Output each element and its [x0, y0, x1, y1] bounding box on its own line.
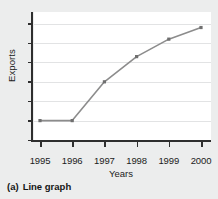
x-axis-tick [169, 142, 171, 147]
x-axis-tick-labels: 199519961997199819992000 [26, 155, 218, 168]
plot-frame [31, 12, 211, 148]
x-axis-tick-label: 1999 [152, 155, 186, 166]
y-axis-tick [28, 140, 33, 142]
x-axis-tick [104, 142, 106, 147]
data-point-marker [135, 55, 138, 58]
series-exports [34, 12, 211, 140]
x-axis-tick [201, 142, 203, 147]
x-axis-tick [40, 142, 42, 147]
series-markers [38, 26, 202, 122]
y-axis-tick [28, 23, 33, 25]
y-axis-tick [28, 120, 33, 122]
y-axis-line [31, 12, 33, 141]
y-axis-tick [28, 43, 33, 45]
x-axis-tick [137, 142, 139, 147]
series-line [40, 28, 201, 121]
chart-container: Exports 199519961997199819992000 Years [0, 4, 218, 172]
plot-area [34, 12, 211, 140]
x-axis-tick-label: 1997 [87, 155, 121, 166]
y-axis-tick [28, 62, 33, 64]
x-axis-tick [72, 142, 74, 147]
data-point-marker [167, 38, 170, 41]
data-point-marker [38, 119, 41, 122]
y-axis-label: Exports [6, 42, 17, 90]
x-axis-line [31, 140, 211, 142]
figure-caption: (a)Line graph [7, 181, 71, 192]
data-point-marker [103, 80, 106, 83]
x-axis-tick-label: 1996 [55, 155, 89, 166]
data-point-marker [199, 26, 202, 29]
y-axis-tick [28, 101, 33, 103]
caption-text: Line graph [23, 181, 72, 192]
y-axis-tick [28, 81, 33, 83]
x-axis-label: Years [31, 168, 211, 179]
x-axis-tick-label: 2000 [184, 155, 218, 166]
x-axis-tick-label: 1995 [23, 155, 57, 166]
x-axis-tick-label: 1998 [120, 155, 154, 166]
data-point-marker [71, 119, 74, 122]
figure-line-graph: Exports 199519961997199819992000 Years (… [0, 0, 218, 199]
caption-label: (a) [7, 181, 19, 192]
